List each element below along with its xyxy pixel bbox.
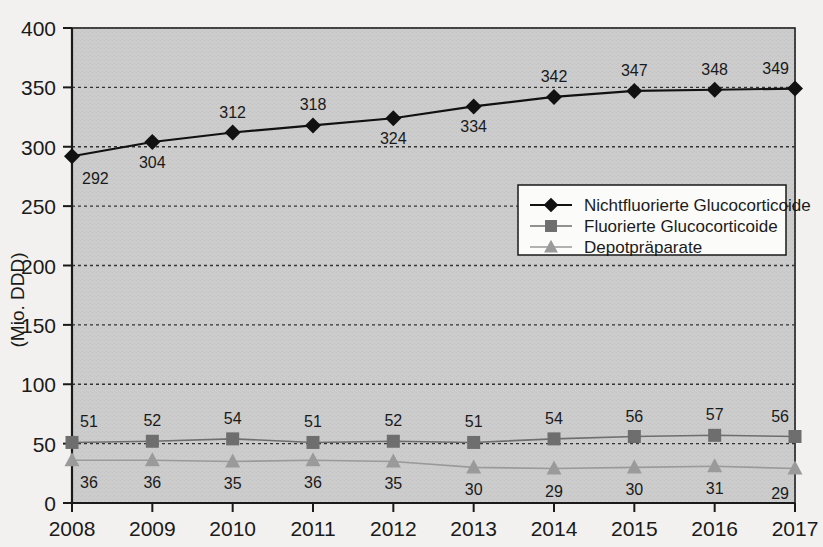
- data-label: 334: [460, 118, 487, 135]
- y-tick-label: 350: [21, 76, 56, 99]
- x-tick-label: 2015: [611, 517, 658, 540]
- x-tick-label: 2017: [772, 517, 819, 540]
- data-label: 30: [625, 481, 643, 498]
- data-label: 342: [541, 68, 568, 85]
- data-label: 36: [80, 474, 98, 491]
- y-tick-label: 100: [21, 373, 56, 396]
- data-label: 30: [465, 481, 483, 498]
- data-label: 312: [219, 104, 246, 121]
- data-label: 36: [304, 474, 322, 491]
- data-label: 304: [139, 154, 166, 171]
- data-label: 347: [621, 62, 648, 79]
- data-label: 56: [771, 408, 789, 425]
- x-tick-label: 2013: [450, 517, 497, 540]
- x-tick-label: 2014: [531, 517, 578, 540]
- data-label: 348: [701, 61, 728, 78]
- marker-square: [789, 430, 802, 443]
- x-tick-label: 2009: [129, 517, 176, 540]
- x-tick-label: 2012: [370, 517, 417, 540]
- marker-square: [66, 436, 79, 449]
- x-tick-label: 2008: [49, 517, 96, 540]
- y-tick-label: 50: [33, 433, 56, 456]
- marker-square: [226, 432, 239, 445]
- y-axis-title: (Mio. DDD): [7, 253, 28, 348]
- data-label: 292: [82, 170, 109, 187]
- y-tick-label: 400: [21, 17, 56, 40]
- data-label: 51: [80, 413, 98, 430]
- data-label: 35: [224, 475, 242, 492]
- data-label: 54: [545, 410, 563, 427]
- marker-square: [307, 436, 320, 449]
- data-label: 35: [384, 475, 402, 492]
- legend-label: Nichtfluorierte Glucocorticoide: [584, 196, 811, 215]
- data-label: 51: [304, 413, 322, 430]
- marker-square: [548, 432, 561, 445]
- line-chart: 050100150200250300350400 200820092010201…: [0, 0, 823, 547]
- chart-container: 050100150200250300350400 200820092010201…: [0, 0, 823, 547]
- data-label: 56: [625, 408, 643, 425]
- data-label: 31: [706, 480, 724, 497]
- data-label: 52: [143, 412, 161, 429]
- marker-square: [387, 435, 400, 448]
- x-tick-label: 2011: [290, 517, 335, 540]
- y-tick-label: 300: [21, 136, 56, 159]
- data-label: 349: [762, 60, 789, 77]
- x-tick-label: 2010: [209, 517, 256, 540]
- data-label: 54: [224, 410, 242, 427]
- marker-square: [708, 429, 721, 442]
- marker-square: [467, 436, 480, 449]
- data-label: 29: [545, 483, 563, 500]
- marker-square: [545, 220, 557, 232]
- legend-label: Depotpräparate: [584, 238, 702, 257]
- data-label: 36: [143, 474, 161, 491]
- data-label: 51: [465, 413, 483, 430]
- data-label: 318: [300, 96, 327, 113]
- data-label: 324: [380, 130, 407, 147]
- x-tick-label: 2016: [691, 517, 738, 540]
- y-tick-label: 250: [21, 195, 56, 218]
- legend-label: Fluorierte Glucocorticoide: [584, 217, 778, 236]
- marker-square: [146, 435, 159, 448]
- legend[interactable]: Nichtfluorierte GlucocorticoideFluoriert…: [518, 185, 811, 257]
- data-label: 57: [706, 406, 724, 423]
- data-label: 52: [384, 412, 402, 429]
- data-label: 29: [771, 485, 789, 502]
- y-tick-label: 0: [44, 492, 56, 515]
- marker-square: [628, 430, 641, 443]
